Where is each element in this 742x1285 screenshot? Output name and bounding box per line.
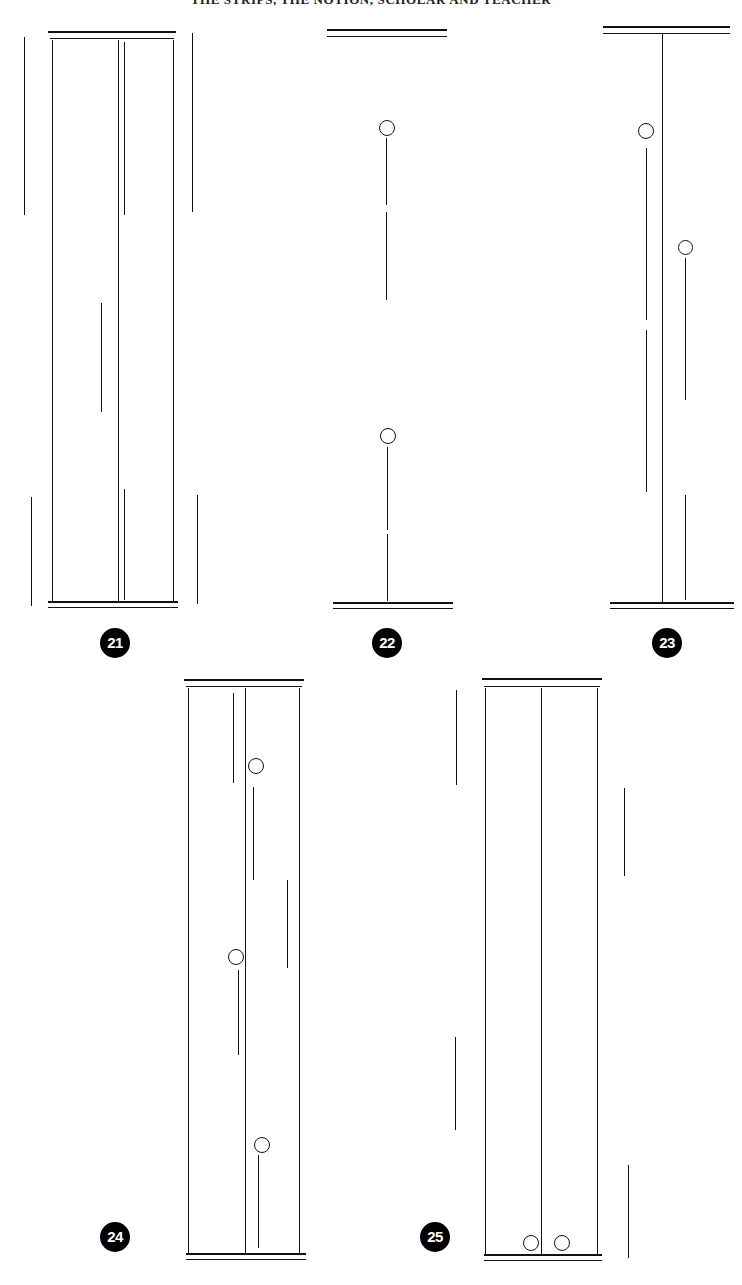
circle-marker [554,1235,570,1251]
frame-wall-right [597,688,598,1255]
outer-stroke [624,788,625,876]
outer-stroke [628,1165,629,1258]
outer-stroke [456,690,457,785]
figure-25: 25 [0,0,742,1285]
outer-stroke [455,1037,456,1130]
bottom-rule [484,1260,602,1261]
top-rule [484,686,600,687]
figure-number-badge-25: 25 [420,1222,450,1252]
top-rule [482,678,602,680]
bottom-rule [484,1254,602,1256]
figure-plate: THE STRIPS, THE NOTION, SCHOLAR AND TEAC… [0,0,742,1285]
frame-wall-left [485,688,486,1255]
circle-marker [523,1235,539,1251]
inner-stroke [541,688,542,1255]
